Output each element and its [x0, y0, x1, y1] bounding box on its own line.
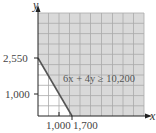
y-tick-label-1000: 1,000 — [5, 88, 30, 100]
x-axis-label: x — [149, 109, 156, 123]
x-tick-label-1000: 1,000 — [46, 119, 71, 131]
inequality-graph: y x 2,550 1,000 1,000 1,700 6x + 4y ≥ 10… — [0, 0, 156, 133]
inequality-annotation: 6x + 4y ≥ 10,200 — [63, 73, 135, 84]
x-tick-label-1700: 1,700 — [73, 119, 98, 131]
y-tick-label-2550: 2,550 — [3, 52, 28, 64]
y-axis-label: y — [32, 0, 39, 12]
